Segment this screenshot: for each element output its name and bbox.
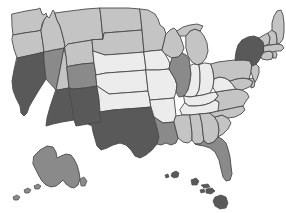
- us-choropleth-map: [0, 0, 286, 213]
- state-CO[interactable]: [67, 63, 97, 89]
- us-map-svg: [0, 0, 286, 213]
- state-PA[interactable]: [211, 60, 252, 81]
- state-NM[interactable]: [69, 86, 101, 126]
- hawaii-niihau: [165, 174, 169, 178]
- hawaii-lanai: [200, 189, 205, 193]
